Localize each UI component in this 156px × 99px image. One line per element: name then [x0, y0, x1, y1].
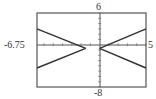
- x-max-label: 5: [148, 40, 153, 50]
- plot-frame: [37, 13, 146, 87]
- y-max-label: 6: [96, 2, 101, 12]
- x-min-label: -6.75: [4, 40, 25, 50]
- y-min-label: -8: [94, 88, 102, 98]
